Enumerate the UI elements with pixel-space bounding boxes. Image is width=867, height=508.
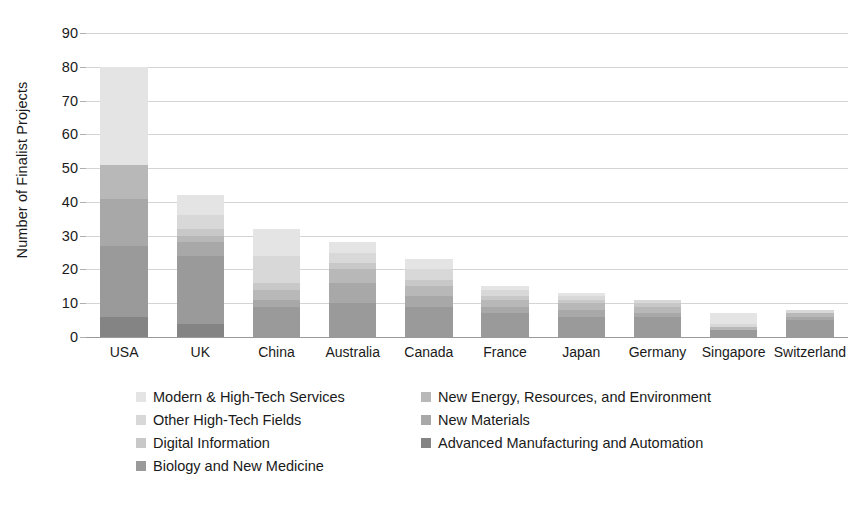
legend-item-label: Advanced Manufacturing and Automation [438, 435, 703, 451]
bar-segment[interactable] [634, 307, 681, 314]
x-tick-label-switzerland: Switzerland [772, 344, 848, 360]
legend-item[interactable]: Modern & High-Tech Services [136, 386, 426, 408]
bar-segment[interactable] [100, 165, 147, 199]
bar-group[interactable] [405, 33, 452, 337]
bar-segment[interactable] [100, 317, 147, 337]
bar-segment[interactable] [329, 263, 376, 270]
bar-segment[interactable] [253, 290, 300, 300]
legend-item[interactable]: New Materials [421, 409, 821, 431]
bar-segment[interactable] [558, 317, 605, 337]
legend-item[interactable]: Advanced Manufacturing and Automation [421, 432, 821, 454]
bar-segment[interactable] [329, 253, 376, 263]
legend-item-label: Other High-Tech Fields [153, 412, 301, 428]
bar-segment[interactable] [177, 242, 224, 256]
bar-segment[interactable] [177, 256, 224, 324]
bar-segment[interactable] [177, 195, 224, 215]
y-tick-label-50: 50 [40, 160, 78, 176]
bar-segment[interactable] [253, 307, 300, 337]
bar-stack [405, 259, 452, 337]
y-tick-label-30: 30 [40, 228, 78, 244]
bar-segment[interactable] [253, 256, 300, 283]
x-tick-label-japan: Japan [543, 344, 619, 360]
legend-item-label: Modern & High-Tech Services [153, 389, 345, 405]
legend-item-label: Digital Information [153, 435, 270, 451]
bar-segment[interactable] [405, 269, 452, 279]
bar-group[interactable] [786, 33, 833, 337]
bar-segment[interactable] [329, 283, 376, 303]
legend-column-right: New Energy, Resources, and EnvironmentNe… [421, 386, 821, 455]
x-tick-label-canada: Canada [391, 344, 467, 360]
legend-item-label: New Materials [438, 412, 530, 428]
bar-segment[interactable] [481, 313, 528, 337]
bar-group[interactable] [558, 33, 605, 337]
x-axis-line [86, 337, 848, 338]
bar-group[interactable] [253, 33, 300, 337]
bar-segment[interactable] [481, 307, 528, 314]
bar-group[interactable] [634, 33, 681, 337]
legend-swatch-icon [421, 415, 431, 425]
legend-item-label: Biology and New Medicine [153, 458, 324, 474]
y-tick-label-60: 60 [40, 126, 78, 142]
x-tick-label-australia: Australia [315, 344, 391, 360]
bar-stack [786, 310, 833, 337]
bar-segment[interactable] [405, 296, 452, 306]
bar-group[interactable] [100, 33, 147, 337]
bar-group[interactable] [329, 33, 376, 337]
bar-stack [329, 242, 376, 337]
x-tick-label-china: China [238, 344, 314, 360]
bar-segment[interactable] [634, 317, 681, 337]
bar-segment[interactable] [481, 290, 528, 297]
bar-segment[interactable] [100, 199, 147, 246]
bar-segment[interactable] [253, 229, 300, 256]
legend-item[interactable]: Other High-Tech Fields [136, 409, 426, 431]
bar-segment[interactable] [100, 67, 147, 165]
bar-segment[interactable] [710, 330, 757, 337]
bar-segment[interactable] [329, 269, 376, 283]
legend-swatch-icon [136, 415, 146, 425]
bar-segment[interactable] [177, 236, 224, 243]
bar-segment[interactable] [558, 310, 605, 317]
bar-segment[interactable] [329, 242, 376, 252]
x-tick-label-usa: USA [86, 344, 162, 360]
bar-stack [100, 67, 147, 337]
bar-segment[interactable] [405, 307, 452, 337]
x-tick-label-uk: UK [162, 344, 238, 360]
bar-stack [558, 293, 605, 337]
bar-segment[interactable] [177, 215, 224, 229]
bar-segment[interactable] [405, 286, 452, 296]
legend-item[interactable]: Digital Information [136, 432, 426, 454]
legend-item[interactable]: New Energy, Resources, and Environment [421, 386, 821, 408]
legend: Modern & High-Tech ServicesOther High-Te… [136, 386, 836, 486]
y-tick-label-70: 70 [40, 93, 78, 109]
bar-segment[interactable] [786, 320, 833, 337]
legend-item-label: New Energy, Resources, and Environment [438, 389, 711, 405]
legend-swatch-icon [136, 438, 146, 448]
y-axis-title-text: Number of Finalist Projects [14, 82, 30, 259]
x-tick-label-france: France [467, 344, 543, 360]
legend-item[interactable]: Biology and New Medicine [136, 455, 426, 477]
bar-group[interactable] [710, 33, 757, 337]
y-tick-label-10: 10 [40, 295, 78, 311]
legend-swatch-icon [136, 392, 146, 402]
y-axis-tick-labels: 0102030405060708090 [34, 33, 78, 337]
bar-group[interactable] [481, 33, 528, 337]
bar-group[interactable] [177, 33, 224, 337]
bar-segment[interactable] [405, 259, 452, 269]
bar-segment[interactable] [405, 280, 452, 287]
x-tick-label-singapore: Singapore [696, 344, 772, 360]
bar-segment[interactable] [177, 229, 224, 236]
stacked-bar-chart: Number of Finalist Projects 010203040506… [0, 0, 867, 508]
y-tick-label-20: 20 [40, 261, 78, 277]
bar-segment[interactable] [329, 303, 376, 337]
bar-segment[interactable] [481, 300, 528, 307]
bar-segment[interactable] [177, 324, 224, 338]
bar-segment[interactable] [253, 300, 300, 307]
x-axis-tick-labels: USAUKChinaAustraliaCanadaFranceJapanGerm… [86, 341, 848, 367]
y-tick-label-80: 80 [40, 59, 78, 75]
y-tick-label-40: 40 [40, 194, 78, 210]
bar-segment[interactable] [100, 246, 147, 317]
bar-segment[interactable] [558, 303, 605, 310]
bar-segment[interactable] [710, 313, 757, 323]
bar-segment[interactable] [253, 283, 300, 290]
bar-stack [481, 286, 528, 337]
